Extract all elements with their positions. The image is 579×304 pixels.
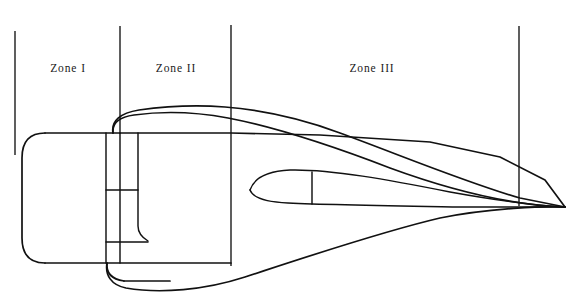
centerbody-spike bbox=[250, 170, 565, 207]
centerbody-lower bbox=[250, 190, 565, 207]
centerbody-upper bbox=[250, 170, 565, 207]
strut-assembly bbox=[106, 133, 148, 263]
cowl-inner-lip bbox=[113, 113, 565, 207]
aft-skirt bbox=[107, 207, 565, 291]
zone-label-1: Zone I bbox=[50, 62, 86, 74]
forebody-nose-cap bbox=[22, 133, 45, 263]
figure-root: Zone I Zone II Zone III bbox=[0, 0, 579, 304]
skirt-lower-contour bbox=[107, 207, 565, 291]
zone-label-2: Zone II bbox=[156, 62, 196, 74]
zone-label-3: Zone III bbox=[349, 62, 394, 74]
figure-canvas bbox=[0, 0, 579, 304]
strut-line-right bbox=[138, 133, 148, 241]
